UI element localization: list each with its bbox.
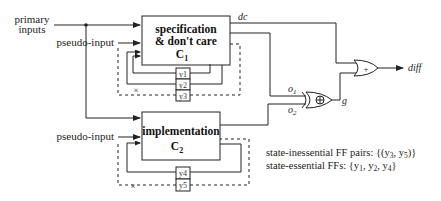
diff-label: diff xyxy=(408,62,423,73)
pseudo-input-c2-label: pseudo-input xyxy=(57,130,114,142)
dc-label: dc xyxy=(238,11,248,22)
o1-wire xyxy=(230,33,306,96)
equivalence-checking-diagram: primary inputs pseudo-input specificatio… xyxy=(0,0,441,201)
c2-registers: y4 y5 xyxy=(176,167,190,191)
state-inessential-text: state-inessential FF pairs: {(y3, y5)} xyxy=(266,147,416,160)
or-gate: + xyxy=(354,60,378,76)
svg-text:y3: y3 xyxy=(179,92,187,101)
c2-title: implementation xyxy=(142,125,220,138)
state-essential-text: state-essential FFs: {y1, y2, y4} xyxy=(266,160,396,173)
c1-title-line2: & don't care xyxy=(155,35,217,47)
dc-wire xyxy=(230,23,356,63)
xor-gate xyxy=(302,92,332,108)
broken-link-marker-c1: × xyxy=(133,85,138,95)
ff-classification-legend: state-inessential FF pairs: {(y3, y5)} s… xyxy=(266,147,416,173)
broken-link-marker-c2: × xyxy=(130,181,135,191)
c1-registers: y1 y2 y3 xyxy=(176,68,190,101)
svg-text:y5: y5 xyxy=(179,181,187,190)
primary-inputs-label: primary inputs xyxy=(15,13,50,35)
o1-label: o1 xyxy=(288,83,297,96)
or-symbol-icon: + xyxy=(363,64,368,74)
o2-label: o2 xyxy=(288,104,297,117)
g-label: g xyxy=(342,95,347,106)
svg-text:inputs: inputs xyxy=(19,23,46,35)
svg-text:y4: y4 xyxy=(179,169,187,178)
svg-text:y2: y2 xyxy=(179,81,187,90)
svg-text:y1: y1 xyxy=(179,70,187,79)
pseudo-input-c1-label: pseudo-input xyxy=(57,36,114,48)
